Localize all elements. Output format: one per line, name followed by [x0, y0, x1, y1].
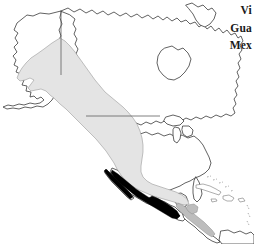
map-figure: Vi Gua Mex	[0, 0, 254, 244]
north-america-map	[0, 0, 254, 244]
